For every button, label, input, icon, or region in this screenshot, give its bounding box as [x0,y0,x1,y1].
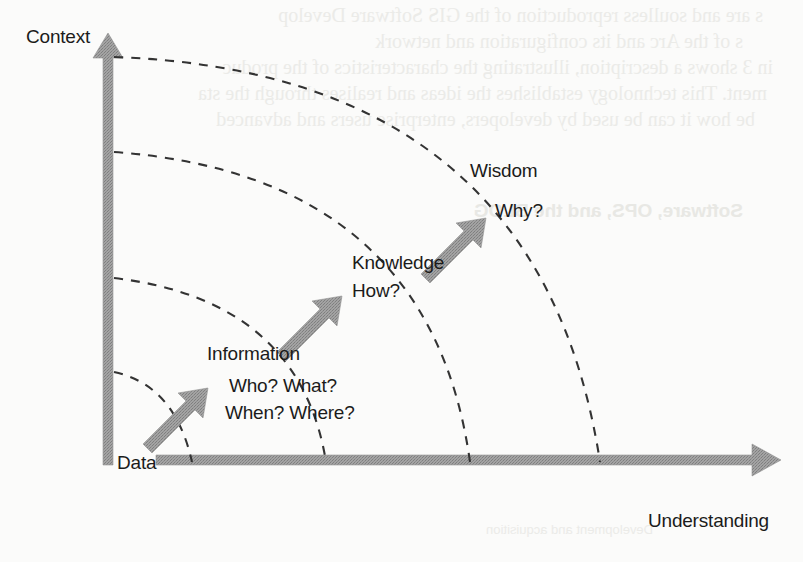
x-axis-label: Understanding [648,510,769,532]
stage-question-information-1: Who? What? [229,375,337,397]
y-axis-arrow [93,33,123,465]
stage-question-wisdom-1: Why? [495,200,543,222]
arc-second [114,278,326,462]
stage-label-knowledge: Knowledge [352,252,444,274]
stage-question-knowledge-1: How? [352,280,400,302]
origin-label-data: Data [117,452,156,474]
arrow-data-to-information [143,388,208,453]
y-axis-label: Context [26,26,90,48]
x-axis-arrow [156,444,781,476]
stage-label-information: Information [207,343,300,365]
dikw-vector-art [0,0,803,562]
stage-label-wisdom: Wisdom [470,160,537,182]
stage-question-information-2: When? Where? [225,402,355,424]
diagram-canvas: s are and soulless reproduction of the G… [0,0,803,562]
